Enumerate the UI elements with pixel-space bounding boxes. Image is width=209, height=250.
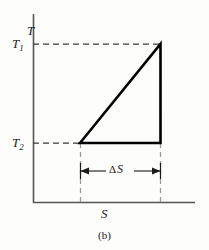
delta-s-entropy-symbol: S (117, 162, 123, 176)
y-tick-label-t1-sub: 1 (19, 43, 24, 53)
process-path-triangle (80, 44, 161, 143)
delta-s-left-arrowhead (81, 168, 90, 175)
ts-diagram-figure: T T1 T2 S ΔS (b) (0, 0, 209, 250)
y-axis-label: T (27, 24, 34, 37)
y-tick-label-t2: T2 (12, 136, 24, 152)
delta-s-annotation-label: ΔS (109, 163, 123, 175)
y-tick-label-t1: T1 (12, 37, 24, 53)
delta-s-right-arrowhead (152, 168, 161, 175)
figure-caption: (b) (0, 229, 209, 241)
x-axis-label: S (101, 207, 108, 220)
delta-symbol: Δ (109, 163, 117, 175)
y-tick-label-t2-sub: 2 (19, 142, 24, 152)
triangle-outline (80, 44, 161, 143)
